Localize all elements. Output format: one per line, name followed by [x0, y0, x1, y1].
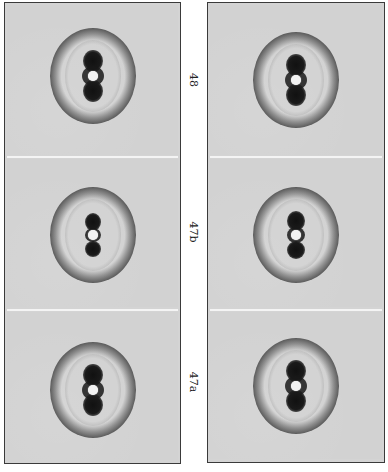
pattern-panel-left-47a	[7, 312, 178, 460]
lower-lobe	[286, 84, 306, 106]
panel-divider	[210, 156, 382, 158]
row-label-47a: 47a	[187, 372, 200, 393]
row-label-47b: 47b	[187, 221, 200, 242]
lower-lobe	[287, 241, 305, 259]
beam-spot	[88, 230, 98, 240]
beam-spot	[88, 385, 98, 395]
panel-divider	[210, 309, 382, 311]
beam-spot	[291, 381, 301, 391]
beam-spot	[291, 75, 301, 85]
diffraction-pattern	[43, 335, 143, 445]
diffraction-pattern	[43, 21, 143, 131]
diffraction-pattern	[43, 180, 143, 290]
lower-lobe	[286, 390, 306, 412]
lower-lobe	[85, 241, 101, 257]
pattern-panel-left-47b	[7, 159, 178, 307]
pattern-panel-right-47a	[210, 312, 382, 459]
panel-divider	[7, 309, 178, 311]
right-column	[207, 2, 385, 463]
pattern-panel-right-48	[210, 5, 382, 155]
diffraction-pattern	[246, 331, 346, 441]
lower-lobe	[83, 80, 103, 102]
left-column	[4, 2, 181, 464]
pattern-panel-left-48	[7, 5, 178, 155]
diffraction-pattern	[246, 180, 346, 290]
lower-lobe	[83, 394, 103, 416]
beam-spot	[88, 71, 98, 81]
diffraction-pattern	[246, 25, 346, 135]
beam-spot	[291, 230, 301, 240]
row-label-48: 48	[187, 73, 200, 87]
panel-divider	[7, 156, 178, 158]
pattern-panel-right-47b	[210, 159, 382, 307]
